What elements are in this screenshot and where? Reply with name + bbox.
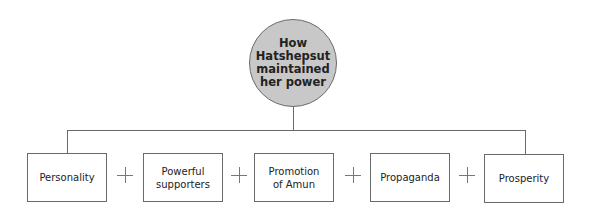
- branch-right-drop: [525, 130, 526, 154]
- branch-horizontal-line: [67, 130, 526, 131]
- factor-box-promotion-of-amun: Promotion of Amun: [254, 153, 334, 202]
- plus-icon: [345, 167, 361, 183]
- plus-icon: [231, 167, 247, 183]
- plus-icon: [459, 167, 475, 183]
- factor-box-personality: Personality: [27, 153, 107, 202]
- hub-stem-line: [293, 107, 294, 130]
- plus-icon: [117, 167, 133, 183]
- factor-box-prosperity: Prosperity: [484, 154, 564, 203]
- factor-box-propaganda: Propaganda: [370, 153, 450, 202]
- factor-box-powerful-supporters: Powerful supporters: [143, 153, 223, 202]
- hub-circle: How Hatshepsut maintained her power: [249, 19, 337, 107]
- hub-label: How Hatshepsut maintained her power: [253, 37, 333, 89]
- branch-left-drop: [67, 130, 68, 153]
